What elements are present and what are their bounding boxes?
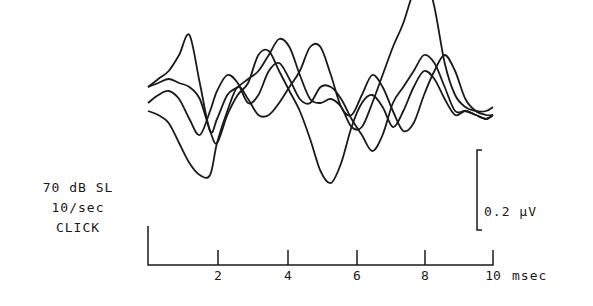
stimulus-label: CLICK [28,218,128,238]
x-tick-2: 2 [214,268,222,283]
level-label: 70 dB SL [28,178,128,198]
rate-label: 10/sec [28,198,128,218]
x-tick-4: 4 [284,268,292,283]
waveform-trace-3 [148,0,493,133]
x-tick-10: 10 [485,268,501,283]
waveform-traces [148,0,493,183]
x-axis-unit: msec [512,268,547,283]
waveform-trace-1 [148,50,493,184]
x-axis [148,226,493,265]
x-tick-6: 6 [353,268,361,283]
waveform-trace-4 [148,44,493,178]
stimulus-conditions: 70 dB SL 10/sec CLICK [28,178,128,238]
waveform-chart [0,0,593,306]
scale-bar-label: 0.2 µV [484,204,537,219]
x-tick-8: 8 [421,268,429,283]
scale-bar [477,150,482,230]
